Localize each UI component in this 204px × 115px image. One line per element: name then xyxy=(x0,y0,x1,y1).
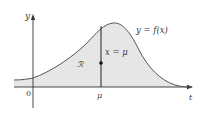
region-label: ℛ xyxy=(77,60,84,69)
y-axis-label: y xyxy=(24,11,31,21)
y-axis-arrow-icon xyxy=(31,14,35,20)
centroid-dot xyxy=(99,61,103,65)
function-graph: y 0 μ t y = f(x) x = μ ℛ xyxy=(0,0,204,115)
mu-tick-label: μ xyxy=(97,91,102,100)
mean-line-label: x = μ xyxy=(105,47,128,57)
t-axis-label: t xyxy=(189,93,193,102)
function-label: y = f(x) xyxy=(135,25,168,35)
origin-label: 0 xyxy=(26,89,31,98)
